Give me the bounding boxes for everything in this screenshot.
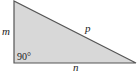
right-triangle-diagram: m p n 90° bbox=[0, 0, 137, 72]
side-label-p: p bbox=[84, 22, 91, 34]
side-label-m: m bbox=[2, 25, 10, 37]
right-angle-label: 90° bbox=[17, 51, 31, 62]
triangle-shape bbox=[14, 1, 136, 63]
side-label-n: n bbox=[73, 61, 79, 72]
